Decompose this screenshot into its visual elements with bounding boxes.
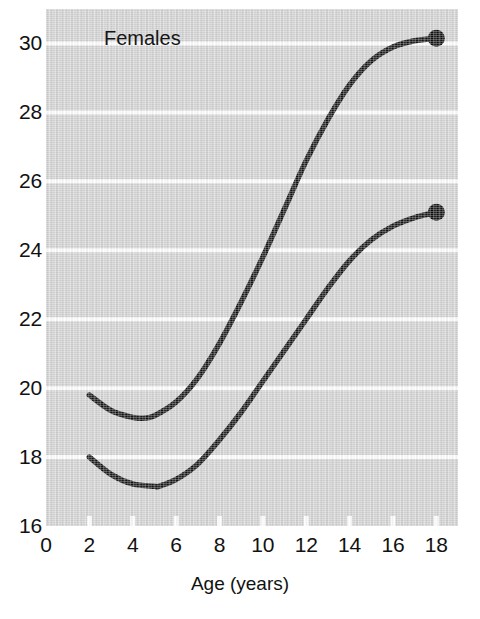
chart-figure: Females 1618202224262830 024681012141618…	[0, 0, 480, 619]
endpoint-marker-series-0	[428, 30, 445, 47]
x-tick-label: 10	[243, 534, 283, 555]
endpoint-marker-series-1	[428, 204, 445, 221]
y-tick-label: 16	[0, 515, 42, 536]
plot-canvas	[46, 9, 458, 526]
endpoint-markers	[428, 30, 445, 221]
x-tick-label: 2	[69, 534, 109, 555]
x-axis-labels: 024681012141618	[0, 534, 480, 560]
panel-label-females: Females	[104, 28, 181, 48]
x-tick-label: 14	[330, 534, 370, 555]
data-curves	[89, 38, 436, 487]
x-tick-label: 18	[416, 534, 456, 555]
y-tick-label: 28	[0, 101, 42, 122]
y-tick-label: 18	[0, 446, 42, 467]
plot-area: Females	[46, 9, 458, 526]
y-tick-label: 22	[0, 308, 42, 329]
x-tick-label: 12	[286, 534, 326, 555]
x-axis-title: Age (years)	[0, 573, 480, 595]
y-tick-label: 26	[0, 170, 42, 191]
x-tick-label: 4	[113, 534, 153, 555]
x-tick-label: 0	[26, 534, 66, 555]
y-tick-label: 24	[0, 239, 42, 260]
x-tick-label: 16	[373, 534, 413, 555]
x-tick-label: 8	[199, 534, 239, 555]
y-tick-label: 20	[0, 377, 42, 398]
x-axis-tick-marks	[89, 516, 436, 526]
x-tick-label: 6	[156, 534, 196, 555]
y-axis-labels: 1618202224262830	[0, 0, 42, 619]
y-tick-label: 30	[0, 32, 42, 53]
